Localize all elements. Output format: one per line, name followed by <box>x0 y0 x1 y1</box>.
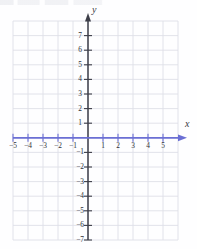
y-tick-label: 6 <box>78 46 82 53</box>
y-tick-label: 7 <box>78 32 82 39</box>
y-axis-label: y <box>92 5 96 15</box>
y-tick-label: −4 <box>76 192 84 199</box>
x-axis-arrowhead <box>178 134 187 141</box>
coordinate-plane-figure: −5 −4 −3 −2 −1 1 2 3 4 5 7 6 5 4 3 2 1 −… <box>0 0 197 249</box>
x-tick-label: −2 <box>54 142 62 149</box>
y-tick-label: 3 <box>78 90 82 97</box>
y-tick-label: −7 <box>76 236 84 243</box>
cropped-header-text-sliver <box>0 0 130 5</box>
y-tick-label: −1 <box>76 149 84 156</box>
x-tick-label: 2 <box>116 142 120 149</box>
y-tick-label: −3 <box>76 178 84 185</box>
plot-area: −5 −4 −3 −2 −1 1 2 3 4 5 7 6 5 4 3 2 1 −… <box>13 21 178 240</box>
x-axis-label: x <box>185 119 189 129</box>
x-tick-label: −5 <box>9 142 17 149</box>
y-tick-label: −6 <box>76 222 84 229</box>
x-tick-label: 5 <box>161 142 165 149</box>
tick-labels: −5 −4 −3 −2 −1 1 2 3 4 5 7 6 5 4 3 2 1 −… <box>13 21 178 240</box>
y-tick-label: 1 <box>78 119 82 126</box>
y-tick-label: −2 <box>76 163 84 170</box>
x-tick-label: 1 <box>101 142 105 149</box>
y-tick-label: 4 <box>78 76 82 83</box>
x-tick-label: 4 <box>146 142 150 149</box>
y-tick-label: −5 <box>76 207 84 214</box>
x-tick-label: −4 <box>24 142 32 149</box>
y-tick-label: 5 <box>78 61 82 68</box>
x-tick-label: −3 <box>39 142 47 149</box>
x-tick-label: 3 <box>131 142 135 149</box>
y-tick-label: 2 <box>78 105 82 112</box>
